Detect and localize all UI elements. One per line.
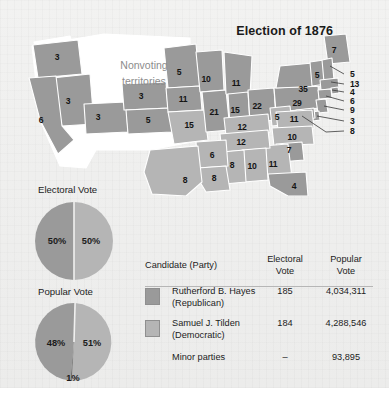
state-vote-missouri: 15 — [184, 120, 193, 130]
state-vote-wisconsin: 10 — [201, 74, 210, 84]
candidate-minor-parties: Minor parties — [172, 352, 225, 364]
state-vote-vermont: 5 — [315, 70, 320, 80]
election-map-figure: Election of 1876 Nonvoting territories 3… — [0, 0, 389, 388]
state-vote-illinois: 21 — [209, 107, 218, 117]
state-vote-michigan: 11 — [232, 78, 241, 88]
header-electoral-vote: Electoral Vote — [263, 254, 307, 277]
state-vote-nebraska: 3 — [139, 91, 144, 101]
callout-vote-new-jersey: 9 — [350, 105, 355, 115]
nonvoting-line-1: Nonvoting — [120, 59, 167, 71]
state-vote-arkansas: 6 — [210, 150, 215, 160]
state-vote-florida: 4 — [292, 181, 297, 191]
popular-label-minor: 1% — [66, 373, 79, 383]
state-vote-texas: 8 — [183, 175, 188, 185]
nonvoting-line-2: territories — [122, 75, 166, 87]
state-vote-minnesota: 5 — [177, 67, 182, 77]
electoral-label-hayes: 50% — [48, 236, 66, 246]
popular-vote-chart-title: Popular Vote — [38, 286, 93, 297]
header-electoral-line1: Electoral — [267, 254, 303, 264]
hayes-popular-vote: 4,034,311 — [313, 286, 379, 296]
callout-vote-maryland: 8 — [350, 126, 355, 136]
state-florida — [268, 172, 308, 196]
state-vote-maine: 7 — [332, 45, 337, 55]
state-vote-colorado: 3 — [96, 112, 101, 122]
nonvoting-territories-label: Nonvoting territories — [102, 57, 186, 89]
legend-swatch-hayes — [145, 288, 160, 305]
state-vote-nevada: 3 — [66, 96, 71, 106]
state-vote-pennsylvania: 29 — [292, 98, 301, 108]
state-vote-west-virginia: 5 — [275, 112, 280, 122]
state-vote-oregon: 3 — [55, 52, 60, 62]
callout-vote-delaware: 3 — [350, 116, 355, 126]
state-vote-louisiana: 8 — [212, 173, 217, 183]
tilden-popular-vote: 4,288,546 — [313, 318, 379, 328]
state-vote-california: 6 — [39, 115, 44, 125]
state-vote-ohio: 22 — [252, 101, 261, 111]
state-wisconsin — [196, 50, 224, 92]
state-vote-south-carolina: 7 — [287, 145, 292, 155]
state-vote-iowa: 11 — [179, 94, 188, 104]
electoral-label-tilden: 50% — [82, 236, 100, 246]
minor-popular-vote: 93,895 — [313, 352, 379, 362]
state-vote-virginia: 11 — [290, 114, 299, 124]
candidate-hayes-name: Rutherford B. Hayes — [172, 286, 255, 296]
popular-label-hayes: 48% — [47, 338, 65, 348]
state-michigan — [224, 52, 252, 96]
popular-pie-divider — [74, 303, 75, 342]
table-header-row: Candidate (Party) Electoral Vote Popular… — [145, 254, 381, 284]
state-connecticut — [318, 89, 332, 99]
candidate-hayes: Rutherford B. Hayes (Republican) — [172, 286, 255, 310]
state-vote-alabama: 10 — [247, 161, 256, 171]
table-row: Minor parties – 93,895 — [145, 348, 381, 372]
electoral-vote-pie — [32, 199, 116, 283]
header-electoral-line2: Vote — [276, 266, 294, 276]
callout-vote-new-hampshire: 5 — [350, 69, 355, 79]
popular-label-tilden: 51% — [83, 338, 101, 348]
state-vote-indiana: 15 — [230, 105, 239, 115]
candidate-tilden-name: Samuel J. Tilden — [172, 318, 240, 328]
table-row: Rutherford B. Hayes (Republican) 185 4,0… — [145, 284, 381, 316]
header-candidate: Candidate (Party) — [145, 260, 217, 272]
tilden-electoral-vote: 184 — [263, 318, 307, 328]
header-popular-line2: Vote — [337, 266, 355, 276]
state-vote-kentucky: 12 — [237, 122, 246, 132]
electoral-vote-chart-title: Electoral Vote — [38, 184, 97, 195]
us-electoral-map: Election of 1876 Nonvoting territories 3… — [0, 0, 389, 196]
state-vote-georgia: 11 — [269, 159, 278, 169]
hayes-electoral-vote: 185 — [263, 286, 307, 296]
popular-vote-pie — [32, 300, 116, 384]
minor-electoral-vote: – — [263, 352, 307, 362]
state-vote-kansas: 5 — [146, 115, 151, 125]
state-colorado — [84, 102, 128, 134]
state-vote-new-york: 35 — [298, 84, 307, 94]
page-title: Election of 1876 — [236, 24, 333, 38]
state-texas — [144, 146, 202, 196]
results-table: Candidate (Party) Electoral Vote Popular… — [145, 254, 381, 372]
table-row: Samuel J. Tilden (Democratic) 184 4,288,… — [145, 316, 381, 348]
legend-swatch-tilden — [145, 320, 160, 337]
state-vote-mississippi: 8 — [230, 160, 235, 170]
state-vote-north-carolina: 10 — [287, 132, 296, 142]
state-vote-tennessee: 12 — [236, 137, 245, 147]
candidate-hayes-party: (Republican) — [172, 298, 224, 308]
candidate-tilden: Samuel J. Tilden (Democratic) — [172, 318, 240, 342]
header-popular-line1: Popular — [330, 254, 362, 264]
header-popular-vote: Popular Vote — [313, 254, 379, 277]
candidate-tilden-party: (Democratic) — [172, 330, 225, 340]
